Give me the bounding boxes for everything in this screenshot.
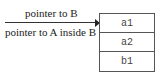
pointer-to-b-label: pointer to B: [25, 7, 78, 19]
memory-cell-a1: a1: [100, 14, 154, 33]
memory-cell-b1: b1: [100, 52, 154, 71]
memory-block: a1 a2 b1: [99, 13, 155, 72]
pointer-to-a-label: pointer to A inside B: [5, 26, 96, 38]
memory-cell-a2: a2: [100, 33, 154, 52]
pointer-arrow-line: [5, 22, 97, 23]
